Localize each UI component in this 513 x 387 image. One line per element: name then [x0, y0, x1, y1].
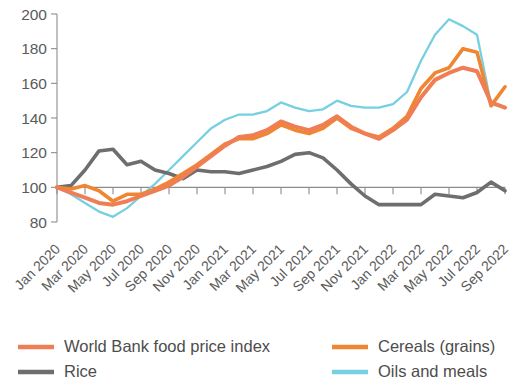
y-tick-label: 80	[30, 214, 48, 231]
legend-label[interactable]: World Bank food price index	[64, 337, 271, 355]
food-price-index-line-chart: 80100120140160180200 Jan 2020Mar 2020May…	[0, 0, 513, 387]
chart-legend: World Bank food price indexRiceCereals (…	[18, 337, 495, 380]
y-tick-label: 180	[21, 40, 47, 57]
chart-canvas: 80100120140160180200 Jan 2020Mar 2020May…	[0, 0, 513, 387]
series-line-cereals-grains	[57, 49, 505, 202]
y-tick-label: 140	[21, 110, 47, 127]
y-tick-label: 200	[21, 6, 47, 23]
y-tick-label: 160	[21, 75, 47, 92]
series-line-world-bank-food-price-index	[57, 68, 505, 205]
legend-label[interactable]: Oils and meals	[378, 362, 487, 380]
legend-label[interactable]: Cereals (grains)	[378, 337, 495, 355]
legend-label[interactable]: Rice	[64, 362, 97, 380]
y-tick-label: 100	[21, 179, 47, 196]
y-axis: 80100120140160180200	[21, 6, 57, 231]
y-tick-label: 120	[21, 144, 47, 161]
